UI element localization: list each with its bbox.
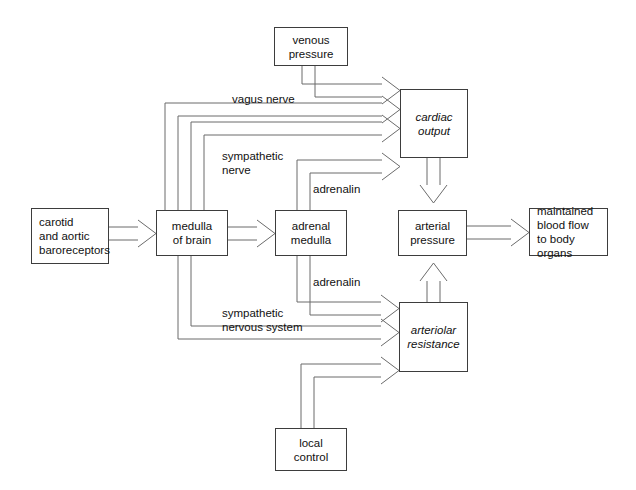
edge-label-sympathetic-nervous-system: sympathetic nervous system — [222, 306, 303, 334]
node-cardiac-output-label: cardiac output — [415, 110, 452, 138]
node-adrenal-medulla-label: adrenal medulla — [291, 219, 331, 247]
node-maintained-blood-flow-label: maintained blood flow to body organs — [537, 204, 607, 260]
arrowhead-arterial-to-bloodflow — [511, 219, 529, 246]
node-carotid-baroreceptors[interactable]: carotid and aortic baroreceptors — [31, 208, 109, 264]
arrowhead-arteriolar-to-arterial — [420, 263, 447, 281]
edge-label-sympathetic-nerve: sympathetic nerve — [222, 149, 283, 177]
node-arteriolar-resistance-label: arteriolar resistance — [407, 323, 459, 351]
node-local-control[interactable]: local control — [275, 428, 347, 471]
node-maintained-blood-flow[interactable]: maintained blood flow to body organs — [529, 208, 608, 256]
arrowhead-local-control — [381, 357, 399, 384]
arrowhead-medulla-to-adrenal — [257, 220, 275, 247]
node-adrenal-medulla[interactable]: adrenal medulla — [275, 210, 347, 256]
node-venous-pressure[interactable]: venous pressure — [274, 27, 348, 66]
arrowhead-adrenalin-upper — [382, 153, 400, 180]
node-arterial-pressure[interactable]: arterial pressure — [398, 210, 467, 256]
node-arteriolar-resistance[interactable]: arteriolar resistance — [399, 302, 468, 372]
arrow-local-control-a — [301, 364, 381, 428]
arrow-venous-pressure-to-cardiac-output-b — [315, 66, 382, 97]
edge-label-vagus-nerve: vagus nerve — [232, 92, 295, 106]
edge-label-adrenalin-lower: adrenalin — [313, 275, 360, 289]
node-carotid-baroreceptors-label: carotid and aortic baroreceptors — [39, 215, 110, 257]
arrow-local-control-b — [314, 377, 381, 428]
physiology-flow-diagram: venous pressure carotid and aortic baror… — [0, 0, 636, 490]
node-medulla-of-brain-label: medulla of brain — [172, 219, 212, 247]
arrowhead-venous-to-cardiac — [382, 77, 400, 104]
node-venous-pressure-label: venous pressure — [289, 33, 334, 61]
node-medulla-of-brain[interactable]: medulla of brain — [156, 210, 228, 256]
arrowhead-cardiac-to-arterial — [420, 185, 447, 203]
arrowhead-medulla-cardiac-2 — [382, 115, 400, 142]
arrowhead-vagus-nerve — [382, 96, 400, 123]
arrowhead-adrenalin-lower — [381, 295, 399, 322]
arrow-venous-pressure-to-cardiac-output — [302, 66, 382, 84]
arrowhead-sympathetic-nervous-system — [381, 319, 399, 346]
node-arterial-pressure-label: arterial pressure — [410, 219, 455, 247]
node-cardiac-output[interactable]: cardiac output — [400, 89, 468, 158]
edge-label-adrenalin-upper: adrenalin — [313, 182, 360, 196]
arrowhead-baroreceptors-to-medulla — [138, 220, 156, 247]
node-local-control-label: local control — [294, 436, 329, 464]
